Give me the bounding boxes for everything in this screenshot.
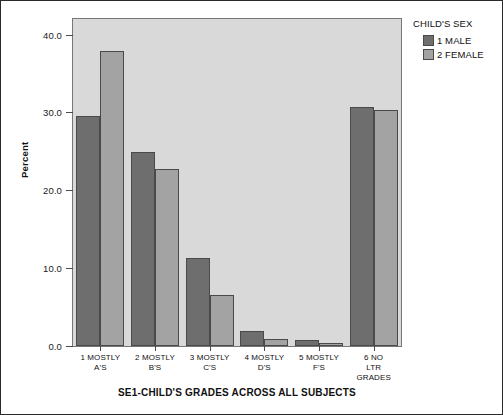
x-axis-tick xyxy=(374,346,375,351)
bar-female-4[interactable] xyxy=(264,339,288,346)
y-axis-tick xyxy=(66,112,73,113)
legend-item-female[interactable]: 2 FEMALE xyxy=(423,49,501,60)
bar-female-2[interactable] xyxy=(155,169,179,346)
bar-male-6[interactable] xyxy=(350,107,374,346)
legend-item-male[interactable]: 1 MALE xyxy=(423,35,501,46)
x-axis-tick xyxy=(100,346,101,351)
legend-swatch-male-icon xyxy=(423,35,434,46)
bar-male-2[interactable] xyxy=(131,152,155,346)
y-axis-tick xyxy=(66,190,73,191)
x-axis-tick xyxy=(155,346,156,351)
chart-page: Percent 0.010.020.030.040.01 MOSTLY A'S2… xyxy=(0,0,503,415)
bar-female-5[interactable] xyxy=(319,343,343,346)
plot-frame: 0.010.020.030.040.01 MOSTLY A'S2 MOSTLY … xyxy=(72,18,402,347)
x-axis-title: SE1-CHILD'S GRADES ACROSS ALL SUBJECTS xyxy=(72,387,402,398)
y-axis-tick xyxy=(66,268,73,269)
bar-female-1[interactable] xyxy=(100,51,124,346)
y-axis-tick-label: 10.0 xyxy=(43,263,62,274)
x-axis-tick xyxy=(319,346,320,351)
bar-male-5[interactable] xyxy=(295,340,319,346)
plot-area: 0.010.020.030.040.01 MOSTLY A'S2 MOSTLY … xyxy=(73,19,401,346)
bar-female-6[interactable] xyxy=(374,110,398,346)
y-axis-tick-label: 30.0 xyxy=(43,107,62,118)
y-axis-tick-label: 20.0 xyxy=(43,185,62,196)
x-axis-tick xyxy=(264,346,265,351)
bar-male-3[interactable] xyxy=(186,258,210,346)
x-axis-tick-label: 3 MOSTLY C'S xyxy=(190,353,230,373)
legend-title: CHILD'S SEX xyxy=(413,18,501,29)
legend-label-male: 1 MALE xyxy=(437,35,471,46)
x-axis-tick xyxy=(210,346,211,351)
legend-label-female: 2 FEMALE xyxy=(437,49,484,60)
y-axis-tick-label: 0.0 xyxy=(48,341,62,352)
x-axis-tick-label: 1 MOSTLY A'S xyxy=(80,353,120,373)
bar-male-4[interactable] xyxy=(240,331,264,346)
legend-swatch-female-icon xyxy=(423,49,434,60)
chart-legend: CHILD'S SEX 1 MALE 2 FEMALE xyxy=(413,18,501,63)
y-axis-tick xyxy=(66,346,73,347)
y-axis-title: Percent xyxy=(19,142,30,178)
x-axis-tick-label: 4 MOSTLY D'S xyxy=(244,353,284,373)
x-axis-tick-label: 6 NO LTR GRADES xyxy=(356,353,390,383)
y-axis-tick xyxy=(66,35,73,36)
y-axis-tick-label: 40.0 xyxy=(43,29,62,40)
bar-female-3[interactable] xyxy=(210,295,234,346)
bar-male-1[interactable] xyxy=(76,116,100,346)
x-axis-tick-label: 2 MOSTLY B'S xyxy=(135,353,175,373)
x-axis-tick-label: 5 MOSTLY F'S xyxy=(299,353,339,373)
